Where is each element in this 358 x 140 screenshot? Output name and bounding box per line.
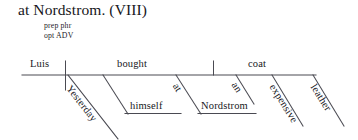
label-direct-object: coat: [248, 58, 266, 69]
adverb-slant: [68, 75, 118, 139]
indirect-object-slant: [103, 75, 128, 114]
diagram-page: at Nordstrom. (VIII) prep phr opt ADV: [0, 0, 358, 140]
diagram-lines: [0, 0, 358, 140]
label-subject: Luis: [30, 58, 49, 69]
label-verb: bought: [117, 58, 147, 69]
label-indirect-object: himself: [130, 100, 163, 111]
label-prep-object: Nordstrom: [201, 100, 248, 111]
sentence-diagram: Luis bought coat himself Nordstrom Yeste…: [0, 0, 358, 140]
